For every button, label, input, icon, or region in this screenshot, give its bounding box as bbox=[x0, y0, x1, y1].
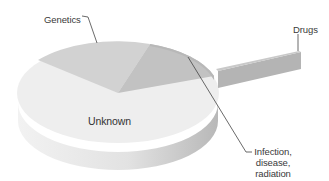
leader-genetics bbox=[82, 16, 97, 43]
label-infection-line1: Infection, bbox=[253, 146, 293, 157]
label-infection: Infection, disease, radiation bbox=[253, 146, 293, 179]
slice-drugs bbox=[218, 52, 301, 88]
label-unknown: Unknown bbox=[88, 116, 131, 127]
label-drugs: Drugs bbox=[293, 24, 318, 35]
label-infection-line2: disease, bbox=[253, 157, 293, 168]
label-infection-line3: radiation bbox=[253, 168, 293, 179]
label-genetics: Genetics bbox=[44, 14, 81, 25]
